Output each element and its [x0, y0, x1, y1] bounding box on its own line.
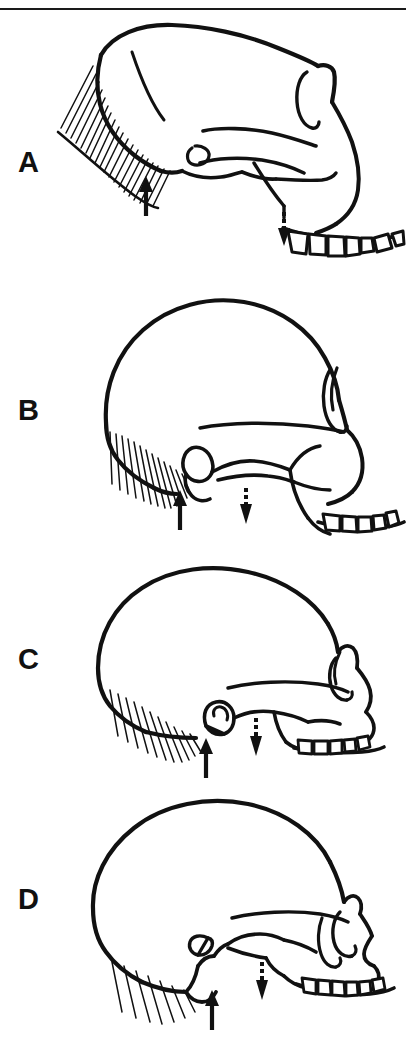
skull-drawing-c — [40, 540, 406, 798]
panel-d: D — [0, 790, 406, 1049]
panel-label-a: A — [18, 148, 39, 177]
skull-drawing-d — [40, 790, 406, 1047]
tooth-row-c — [298, 736, 370, 754]
tooth-row-a — [288, 231, 404, 256]
panel-label-d: D — [18, 885, 39, 914]
nuchal-hatching-a — [61, 66, 170, 206]
figure-root: A — [0, 0, 406, 1049]
arrow-down-dashed-b — [240, 488, 252, 524]
skull-drawing-a — [40, 0, 406, 268]
nuchal-hatching-c — [110, 690, 201, 762]
panel-label-c: C — [18, 645, 39, 674]
skull-drawing-b — [40, 270, 406, 538]
arrow-down-dashed-d — [256, 962, 268, 1000]
arrow-down-dashed-c — [250, 718, 262, 756]
arrow-up-solid-d — [205, 990, 219, 1030]
arrow-up-solid-c — [199, 738, 213, 778]
tooth-row-b — [323, 511, 399, 532]
panel-c: C — [0, 540, 406, 800]
panel-label-b: B — [18, 396, 39, 425]
panel-a: A — [0, 0, 406, 270]
panel-b: B — [0, 270, 406, 540]
